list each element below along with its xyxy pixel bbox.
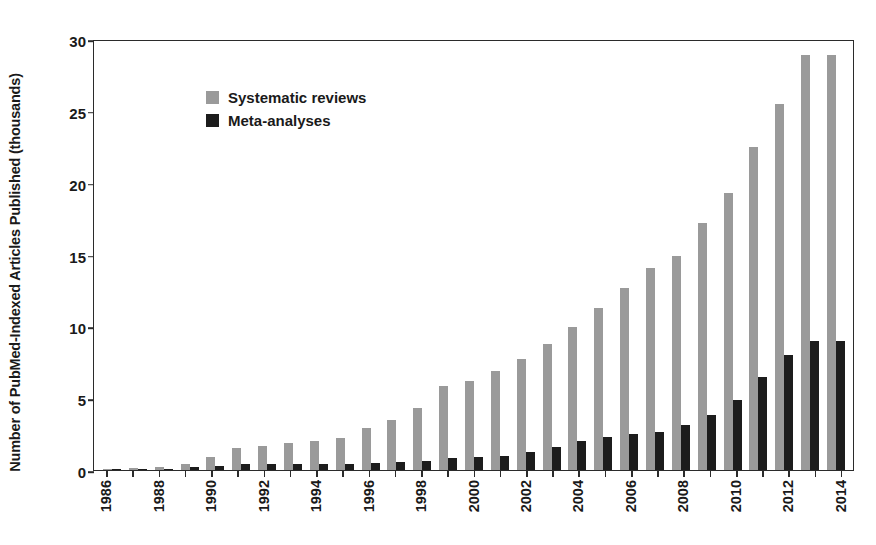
bar-meta-analyses-1993 [293,464,302,470]
bar-systematic-reviews-1988 [155,467,164,470]
bar-meta-analyses-2007 [655,432,664,470]
x-axis-tick-label: 1988 [151,480,167,512]
x-axis-tick-mark [474,471,476,477]
x-axis-tick-mark [447,471,449,477]
bar-group [564,41,590,470]
x-axis-tick-label: 1986 [98,480,114,512]
bar-meta-analyses-1995 [345,464,354,470]
x-axis-tick-mark [762,471,764,477]
bar-systematic-reviews-1997 [387,420,396,470]
bar-systematic-reviews-1992 [258,446,267,470]
x-axis-tick-mark [132,471,134,477]
bar-group [383,41,409,470]
x-axis-tick-mark [369,471,371,477]
x-axis-tick-mark [815,471,817,477]
bar-meta-analyses-2014 [836,341,845,470]
bar-systematic-reviews-1993 [284,443,293,470]
x-axis-tick-mark [185,471,187,477]
x-axis-tick-mark [683,471,685,477]
x-axis-tick-mark [264,471,266,477]
x-axis-tick-mark [159,471,161,477]
bar-group [694,41,720,470]
bar-group [771,41,797,470]
bar-meta-analyses-2011 [758,377,767,470]
x-axis-tick-label: 1994 [308,480,324,512]
bar-meta-analyses-2012 [784,355,793,470]
x-axis-tick-label: 2010 [728,480,744,512]
bar-group [177,41,203,470]
bar-systematic-reviews-1994 [310,441,319,470]
x-axis-tick-mark [578,471,580,477]
bar-group [590,41,616,470]
bar-group [745,41,771,470]
bar-meta-analyses-2000 [474,457,483,470]
bar-meta-analyses-2013 [810,341,819,470]
bar-meta-analyses-1989 [190,467,199,470]
bar-meta-analyses-1997 [396,462,405,470]
bar-systematic-reviews-2007 [646,268,655,470]
x-axis-tick-mark [657,471,659,477]
bar-group [125,41,151,470]
bar-meta-analyses-2006 [629,434,638,470]
x-axis-tick-label: 1996 [361,480,377,512]
x-axis-tick-mark [421,471,423,477]
bar-systematic-reviews-2001 [491,371,500,470]
x-axis-tick-mark [788,471,790,477]
x-axis-tick-label: 2012 [780,480,796,512]
legend-label: Meta-analyses [228,112,331,129]
bar-meta-analyses-1996 [371,463,380,470]
bar-group [642,41,668,470]
bar-meta-analyses-2003 [552,447,561,470]
bar-group [668,41,694,470]
bar-meta-analyses-2009 [707,415,716,470]
bar-systematic-reviews-1986 [103,469,112,470]
x-axis-tick-mark [500,471,502,477]
bar-meta-analyses-2004 [577,441,586,470]
bar-meta-analyses-1990 [215,466,224,470]
bar-meta-analyses-1991 [241,464,250,470]
bar-group [409,41,435,470]
bar-systematic-reviews-1987 [129,468,138,470]
x-axis-tick-mark [290,471,292,477]
x-axis-tick-mark [526,471,528,477]
bar-group [99,41,125,470]
x-axis-tick-label: 2002 [518,480,534,512]
bar-systematic-reviews-2011 [749,147,758,470]
legend-item: Systematic reviews [206,89,366,106]
x-axis-tick-mark [342,471,344,477]
plot-area: 051015202530 Systematic reviewsMeta-anal… [93,40,854,471]
bar-group [513,41,539,470]
x-axis-tick-mark [841,471,843,477]
bar-group [151,41,177,470]
x-axis-tick-label: 1998 [413,480,429,512]
bar-systematic-reviews-1999 [439,386,448,470]
bar-meta-analyses-1994 [319,464,328,470]
x-axis-tick-mark [395,471,397,477]
bar-systematic-reviews-2013 [801,55,810,470]
bar-systematic-reviews-2009 [698,223,707,470]
bar-group [461,41,487,470]
bar-systematic-reviews-2004 [568,327,577,470]
bar-meta-analyses-2008 [681,425,690,470]
bar-meta-analyses-1987 [138,469,147,470]
bar-systematic-reviews-1991 [232,448,241,470]
bar-meta-analyses-2005 [603,437,612,470]
bar-meta-analyses-1986 [112,469,121,470]
bar-meta-analyses-2010 [733,400,742,470]
x-axis-tick-label: 2008 [675,480,691,512]
bar-systematic-reviews-1990 [206,457,215,470]
bar-meta-analyses-1999 [448,458,457,470]
bar-meta-analyses-2001 [500,456,509,470]
x-axis-tick-mark [631,471,633,477]
bar-group [797,41,823,470]
x-axis-tick-mark [552,471,554,477]
chart-legend: Systematic reviewsMeta-analyses [206,89,366,129]
bar-systematic-reviews-2002 [517,359,526,470]
bar-systematic-reviews-2012 [775,104,784,470]
x-axis-tick-mark [316,471,318,477]
x-axis-tick-mark [237,471,239,477]
x-axis-tick-label: 1992 [256,480,272,512]
legend-swatch-icon [206,114,219,127]
bar-systematic-reviews-2010 [724,193,733,470]
x-axis-tick-mark [605,471,607,477]
